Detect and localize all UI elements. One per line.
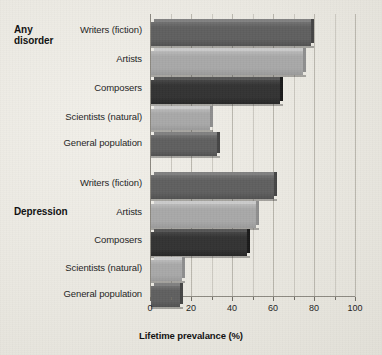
x-tick-label-60: 60 bbox=[258, 303, 288, 313]
row-label-any-composers: Composers bbox=[94, 82, 142, 93]
tick-mark-60 bbox=[273, 297, 274, 301]
bar-depression-writers-fiction bbox=[151, 175, 274, 199]
bar-depression-composers bbox=[151, 232, 247, 256]
group-label-any-disorder-line1: Any bbox=[14, 24, 53, 35]
x-tick-label-0: 0 bbox=[135, 303, 165, 313]
tick-mark-10 bbox=[171, 297, 172, 300]
bar-any-disorder-general-population bbox=[151, 135, 217, 156]
group-label-any-disorder: Any disorder bbox=[14, 24, 53, 46]
bar-chart: Any disorder Depression Writers (fiction… bbox=[0, 0, 382, 355]
bar-face bbox=[151, 260, 182, 281]
tick-mark-50 bbox=[253, 297, 254, 300]
tick-mark-70 bbox=[294, 297, 295, 300]
row-label-any-general: General population bbox=[64, 137, 142, 148]
row-label-dep-writers: Writers (fiction) bbox=[80, 177, 142, 188]
bar-side-bevel bbox=[256, 201, 259, 225]
bar-side-bevel bbox=[210, 106, 213, 127]
tick-mark-30 bbox=[212, 297, 213, 300]
tick-mark-20 bbox=[191, 297, 192, 301]
tick-mark-0 bbox=[150, 297, 151, 301]
gridline-90 bbox=[335, 14, 336, 297]
bar-side-bevel bbox=[247, 229, 250, 253]
row-label-any-artists: Artists bbox=[116, 53, 142, 64]
bar-face bbox=[151, 109, 210, 130]
bar-any-disorder-writers-fiction bbox=[151, 22, 311, 46]
row-label-dep-artists: Artists bbox=[116, 206, 142, 217]
row-label-any-scientists: Scientists (natural) bbox=[65, 111, 142, 122]
bar-face bbox=[151, 204, 256, 228]
bar-side-bevel bbox=[182, 257, 185, 278]
bar-side-bevel bbox=[311, 19, 314, 43]
x-tick-label-40: 40 bbox=[217, 303, 247, 313]
bar-side-bevel bbox=[303, 48, 306, 72]
bar-any-disorder-composers bbox=[151, 80, 280, 104]
group-label-depression: Depression bbox=[14, 206, 67, 217]
row-label-any-writers: Writers (fiction) bbox=[80, 24, 142, 35]
bar-side-bevel bbox=[180, 283, 183, 304]
bar-side-bevel bbox=[217, 132, 220, 153]
plot-area bbox=[150, 14, 355, 297]
bar-any-disorder-artists bbox=[151, 51, 303, 75]
x-tick-label-20: 20 bbox=[176, 303, 206, 313]
bar-face bbox=[151, 175, 274, 199]
bar-any-disorder-scientists-natural bbox=[151, 109, 210, 130]
gridline-80 bbox=[314, 14, 315, 297]
bar-face bbox=[151, 22, 311, 46]
bar-side-bevel bbox=[280, 77, 283, 101]
bar-face bbox=[151, 51, 303, 75]
x-tick-label-80: 80 bbox=[299, 303, 329, 313]
tick-mark-100 bbox=[355, 297, 356, 301]
bar-drop-shadow bbox=[151, 156, 220, 158]
row-label-dep-composers: Composers bbox=[94, 234, 142, 245]
tick-mark-90 bbox=[335, 297, 336, 300]
bar-depression-artists bbox=[151, 204, 256, 228]
tick-mark-40 bbox=[232, 297, 233, 301]
gridline-100 bbox=[355, 14, 356, 297]
row-label-dep-general: General population bbox=[64, 288, 142, 299]
category-label-column: Any disorder Depression Writers (fiction… bbox=[0, 0, 150, 355]
bar-face bbox=[151, 232, 247, 256]
row-label-dep-scientists: Scientists (natural) bbox=[65, 262, 142, 273]
x-tick-label-100: 100 bbox=[340, 303, 370, 313]
bar-side-bevel bbox=[274, 172, 277, 196]
group-label-any-disorder-line2: disorder bbox=[14, 35, 53, 46]
tick-mark-80 bbox=[314, 297, 315, 301]
bar-face bbox=[151, 135, 217, 156]
bar-depression-scientists-natural bbox=[151, 260, 182, 281]
x-axis-title: Lifetime prevalance (%) bbox=[0, 330, 382, 341]
bar-face bbox=[151, 80, 280, 104]
